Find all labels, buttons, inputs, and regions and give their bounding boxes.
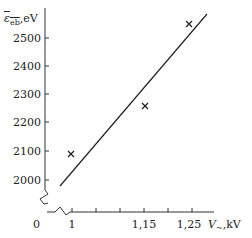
y-axis-unit: ,eV: [20, 12, 38, 25]
y-tick-label: 2100: [13, 146, 41, 157]
y-tick-label: 2400: [13, 61, 41, 72]
x-tick-label: 1,25: [177, 219, 202, 230]
x-axis-subscript: ~: [216, 224, 223, 233]
x-axis: [47, 207, 214, 215]
data-markers: [68, 21, 192, 157]
x-tick-label: 1,15: [132, 219, 157, 230]
y-axis-label: εeb,eV: [4, 13, 38, 27]
x-axis-symbol: V: [208, 218, 216, 231]
origin-label: 0: [33, 219, 40, 230]
y-tick-label: 2000: [13, 175, 41, 186]
y-tick-label: 2200: [13, 117, 41, 128]
y-tick-label: 2300: [13, 89, 41, 100]
x-axis-unit: ,kV: [223, 218, 241, 231]
y-axis: [40, 8, 49, 204]
y-axis-subscript: eb: [10, 18, 20, 27]
x-axis-label: V~,kV: [208, 219, 241, 233]
fit-line: [60, 14, 207, 186]
marker-x-icon: [142, 103, 148, 109]
marker-x-icon: [186, 21, 192, 27]
x-tick-label: 1: [69, 219, 76, 230]
marker-x-icon: [68, 151, 74, 157]
y-tick-label: 2500: [13, 33, 41, 44]
